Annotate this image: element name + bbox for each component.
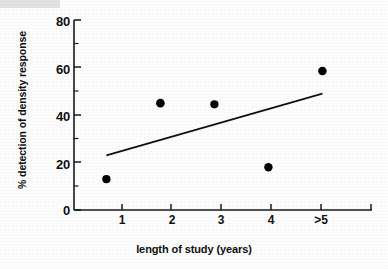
data-point-year-gt5 <box>318 67 327 76</box>
y-axis-major-ticks <box>74 20 81 210</box>
data-point-year-1 <box>102 175 110 183</box>
data-point-year-3 <box>210 100 218 108</box>
plot-area <box>0 0 388 269</box>
data-point-year-2 <box>156 99 165 108</box>
scatter-chart-figure: % detection of density response length o… <box>0 0 388 269</box>
data-point-year-4 <box>264 163 272 171</box>
x-axis-major-ticks <box>122 204 371 210</box>
